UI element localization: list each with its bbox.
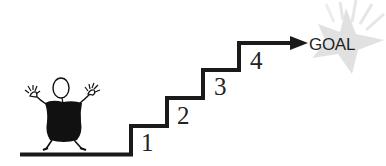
- step-3-label: 3: [214, 74, 227, 99]
- worried-figure-icon: [25, 78, 100, 150]
- goal-label: GOAL: [309, 36, 355, 53]
- step-1-label: 1: [141, 130, 154, 155]
- staircase-diagram: 1 2 3 4 GOAL: [0, 0, 386, 166]
- diagram-canvas: [0, 0, 386, 166]
- step-2-label: 2: [177, 103, 190, 128]
- step-4-label: 4: [250, 48, 263, 73]
- arrow-head-icon: [290, 36, 308, 50]
